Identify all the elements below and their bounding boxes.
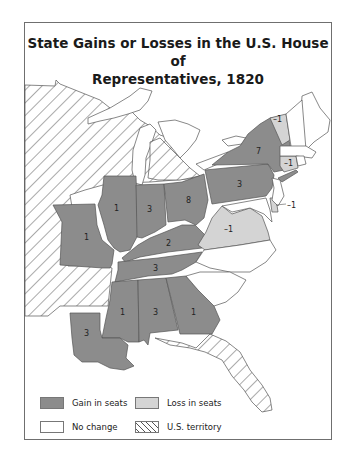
label-mississippi: 1 xyxy=(120,308,125,317)
label-delaware: –1 xyxy=(287,201,296,210)
label-louisiana: 3 xyxy=(84,329,89,338)
label-connecticut: –1 xyxy=(284,159,293,168)
label-ohio: 8 xyxy=(186,196,191,205)
legend-territory: U.S. territory xyxy=(135,421,222,433)
legend-territory-swatch xyxy=(135,421,159,433)
label-vermont: –1 xyxy=(273,115,282,124)
label-kentucky: 2 xyxy=(166,239,171,248)
label-virginia: –1 xyxy=(224,225,233,234)
label-pennsylvania: 3 xyxy=(237,180,242,189)
legend-territory-label: U.S. territory xyxy=(167,422,222,432)
label-georgia: 1 xyxy=(191,308,196,317)
state-illinois xyxy=(98,176,138,252)
legend-no-change-swatch xyxy=(40,421,64,433)
state-rhode-island xyxy=(296,156,306,166)
legend-loss: Loss in seats xyxy=(135,397,221,409)
label-new-york: 7 xyxy=(256,147,261,156)
legend-gain-swatch xyxy=(40,397,64,409)
legend-loss-label: Loss in seats xyxy=(167,398,221,408)
label-missouri: 1 xyxy=(84,233,89,242)
legend-loss-swatch xyxy=(135,397,159,409)
label-indiana: 3 xyxy=(147,205,152,214)
label-alabama: 3 xyxy=(153,308,158,317)
legend-gain-label: Gain in seats xyxy=(72,398,127,408)
legend-no-change: No change xyxy=(40,421,118,433)
label-illinois: 1 xyxy=(114,204,119,213)
legend-no-change-label: No change xyxy=(72,422,118,432)
state-long-island xyxy=(278,170,298,182)
label-tennessee: 3 xyxy=(153,264,158,273)
legend-gain: Gain in seats xyxy=(40,397,127,409)
us-map: 1 1 3 8 3 7 2 3 1 3 1 3 –1 –1 –1 –1 xyxy=(0,0,348,457)
